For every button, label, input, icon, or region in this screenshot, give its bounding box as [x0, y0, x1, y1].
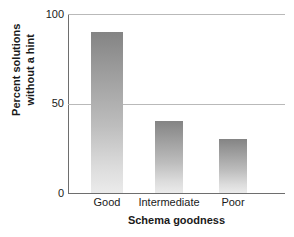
gridline-100	[68, 14, 285, 15]
y-tick-label-0: 0	[40, 187, 64, 199]
bar-good	[91, 32, 123, 193]
x-tick-label-poor: Poor	[193, 197, 273, 208]
y-axis-title: Percent solutions without a hint	[10, 0, 38, 150]
plot-area	[68, 14, 285, 193]
y-tick-label-100: 100	[40, 8, 64, 20]
bar-poor	[219, 139, 247, 193]
bar-intermediate	[155, 121, 183, 193]
x-axis-line	[68, 193, 285, 194]
bar-chart-figure: Percent solutions without a hint 100 50 …	[0, 0, 294, 237]
y-axis-title-line-2: without a hint	[24, 0, 38, 150]
x-axis-title: Schema goodness	[68, 214, 285, 226]
y-tick-label-50: 50	[40, 97, 64, 109]
y-axis-title-line-1: Percent solutions	[10, 0, 24, 150]
